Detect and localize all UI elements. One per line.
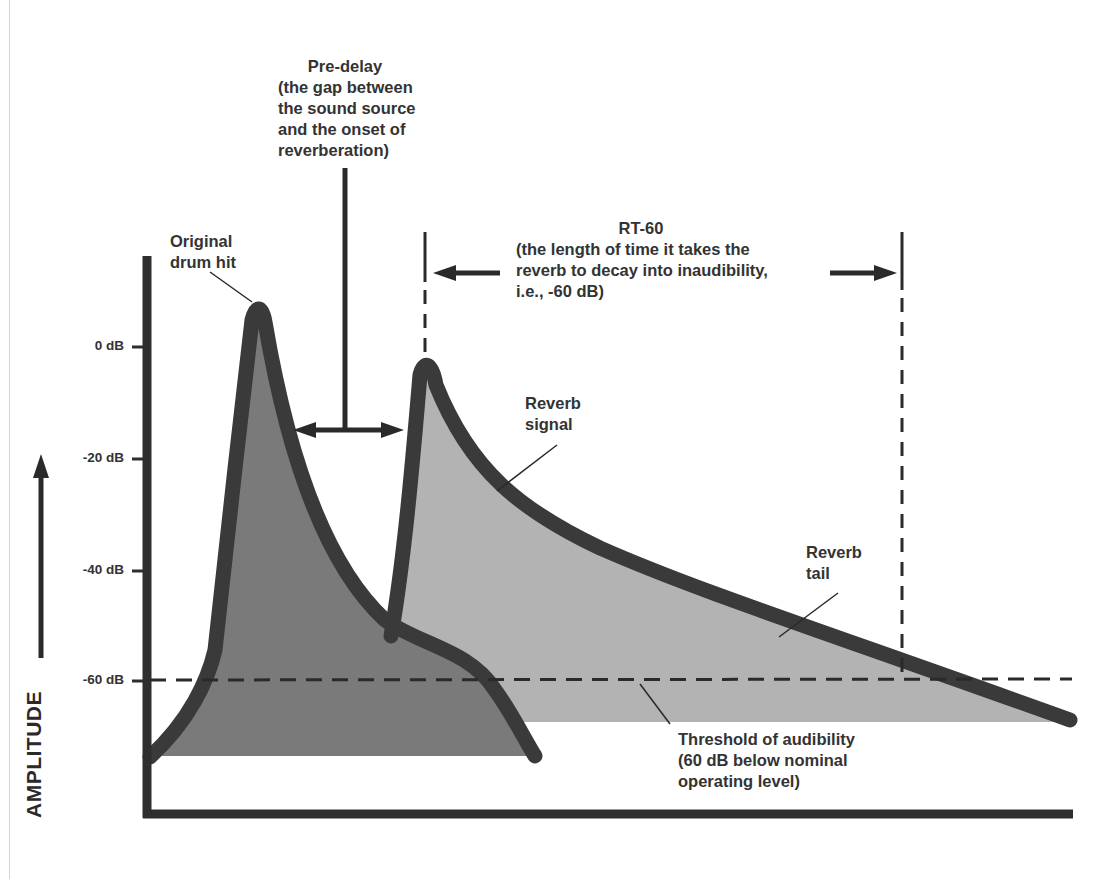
reverb-diagram xyxy=(0,0,1095,879)
reverb-signal-line-1: Reverb xyxy=(525,393,581,414)
reverb-signal-label: Reverb signal xyxy=(525,393,581,435)
tick-label-0db: 0 dB xyxy=(64,338,124,353)
predelay-right-arrowhead-icon xyxy=(381,422,404,438)
predelay-line-2: the sound source xyxy=(278,98,420,119)
reverb-signal-line-2: signal xyxy=(525,414,581,435)
original-line-1: Original xyxy=(170,231,236,252)
tick-label-minus40db: -40 dB xyxy=(64,562,124,577)
reverb-tail-line-2: tail xyxy=(806,563,862,584)
y-axis-title: AMPLITUDE xyxy=(22,691,46,818)
rt60-left-arrowhead-icon xyxy=(433,265,456,281)
reverb-tail-line-1: Reverb xyxy=(806,542,862,563)
tick-label-minus20db: -20 dB xyxy=(64,450,124,465)
threshold-label: Threshold of audibility (60 dB below nom… xyxy=(678,729,855,792)
predelay-line-3: and the onset of xyxy=(278,119,420,140)
rt60-line-3: i.e., -60 dB) xyxy=(516,281,768,302)
reverb-tail-label: Reverb tail xyxy=(806,542,862,584)
original-line-2: drum hit xyxy=(170,252,236,273)
rt60-line-2: reverb to decay into inaudibility, xyxy=(516,260,768,281)
predelay-title: Pre-delay xyxy=(270,56,420,77)
predelay-label: Pre-delay (the gap between the sound sou… xyxy=(270,56,420,161)
rt60-line-1: (the length of time it takes the xyxy=(516,239,768,260)
reverb-signal-leader-line xyxy=(497,445,557,491)
threshold-line-2: (60 dB below nominal xyxy=(678,750,855,771)
rt60-label: RT-60 (the length of time it takes the r… xyxy=(516,218,768,302)
predelay-line-1: (the gap between xyxy=(278,77,420,98)
tick-label-minus60db: -60 dB xyxy=(64,672,124,687)
original-leader-line xyxy=(210,272,252,302)
threshold-line-3: operating level) xyxy=(678,771,855,792)
rt60-right-arrowhead-icon xyxy=(874,265,897,281)
original-drum-hit-label: Original drum hit xyxy=(170,231,236,273)
threshold-line-1: Threshold of audibility xyxy=(678,729,855,750)
amplitude-arrowhead-icon xyxy=(33,454,49,478)
predelay-line-4: reverberation) xyxy=(278,140,420,161)
rt60-title: RT-60 xyxy=(516,218,766,239)
reverb-signal-fill xyxy=(393,365,1070,722)
